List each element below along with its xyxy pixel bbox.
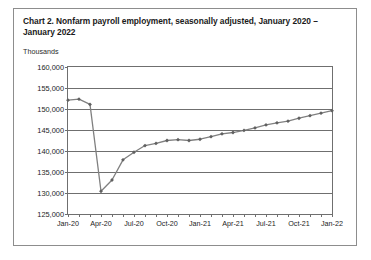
y-axis-tick-label: 145,000: [37, 126, 64, 135]
x-axis-tick-mark: [277, 214, 278, 217]
x-axis-tick-mark: [222, 214, 223, 217]
data-point-marker: [165, 139, 169, 143]
x-axis-tick-mark: [134, 214, 135, 217]
x-axis-tick-label: Jan-22: [321, 219, 343, 228]
x-axis-tick-mark: [68, 214, 69, 217]
x-axis-tick-mark: [112, 214, 113, 217]
x-axis-tick-label: Jul-21: [256, 219, 276, 228]
y-axis-tick-label: 140,000: [37, 147, 64, 156]
data-point-marker: [66, 98, 70, 102]
data-point-marker: [275, 121, 279, 125]
data-point-marker: [231, 131, 235, 135]
y-axis-tick-label: 135,000: [37, 168, 64, 177]
data-point-marker: [187, 139, 191, 143]
data-point-marker: [154, 142, 158, 146]
x-axis-tick-label: Oct-20: [156, 219, 178, 228]
data-point-marker: [319, 111, 323, 115]
x-axis-tick-mark: [123, 214, 124, 217]
x-axis-tick-label: Jan-20: [57, 219, 79, 228]
data-series-line: [68, 67, 332, 214]
data-point-marker: [176, 138, 180, 142]
x-axis-tick-mark: [167, 214, 168, 217]
x-axis-tick-mark: [266, 214, 267, 217]
plot-area: 125,000130,000135,000140,000145,000150,0…: [67, 66, 333, 215]
data-point-marker: [297, 116, 301, 120]
x-axis-tick-label: Apr-21: [222, 219, 244, 228]
x-axis-tick-mark: [288, 214, 289, 217]
chart-figure: Chart 2. Nonfarm payroll employment, sea…: [13, 8, 357, 246]
x-axis-tick-mark: [332, 214, 333, 217]
x-axis-tick-label: Apr-20: [90, 219, 112, 228]
data-point-marker: [242, 129, 246, 133]
data-point-marker: [209, 135, 213, 139]
data-point-marker: [308, 114, 312, 118]
x-axis-tick-mark: [189, 214, 190, 217]
x-axis-tick-mark: [101, 214, 102, 217]
data-point-marker: [220, 132, 224, 136]
y-axis-tick-label: 125,000: [37, 210, 64, 219]
x-axis-tick-mark: [79, 214, 80, 217]
data-point-marker: [198, 137, 202, 141]
x-axis-tick-mark: [255, 214, 256, 217]
data-point-marker: [330, 109, 334, 113]
x-axis-tick-mark: [145, 214, 146, 217]
x-axis-tick-mark: [211, 214, 212, 217]
x-axis-tick-mark: [233, 214, 234, 217]
x-axis-tick-mark: [90, 214, 91, 217]
y-axis-tick-label: 150,000: [37, 105, 64, 114]
x-axis-tick-label: Jan-21: [189, 219, 211, 228]
y-axis-tick-label: 160,000: [37, 63, 64, 72]
y-axis-units-label: Thousands: [23, 47, 59, 56]
data-point-marker: [264, 123, 268, 127]
x-axis-tick-mark: [321, 214, 322, 217]
x-axis-tick-mark: [156, 214, 157, 217]
x-axis-tick-mark: [200, 214, 201, 217]
y-axis-tick-label: 155,000: [37, 84, 64, 93]
x-axis-tick-mark: [178, 214, 179, 217]
series-polyline: [68, 99, 332, 191]
x-axis-tick-mark: [299, 214, 300, 217]
data-point-marker: [286, 119, 290, 123]
x-axis-tick-mark: [244, 214, 245, 217]
x-axis-tick-label: Jul-20: [124, 219, 144, 228]
y-axis-tick-label: 130,000: [37, 189, 64, 198]
x-axis-tick-mark: [310, 214, 311, 217]
x-axis-tick-label: Oct-21: [288, 219, 310, 228]
chart-title: Chart 2. Nonfarm payroll employment, sea…: [23, 16, 345, 39]
data-point-marker: [253, 126, 257, 130]
